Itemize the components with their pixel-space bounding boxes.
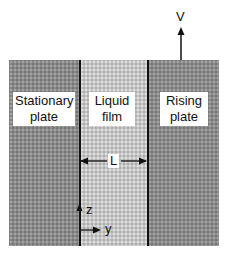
z-axis-label: z [84,203,95,217]
velocity-arrow-icon [178,27,185,60]
arrows-layer [0,0,228,256]
velocity-label: V [174,10,187,24]
gap-label: L [108,154,119,168]
z-axis-arrow-icon [77,203,83,211]
y-axis-label: y [103,222,114,236]
y-axis-arrow-icon [80,227,101,234]
